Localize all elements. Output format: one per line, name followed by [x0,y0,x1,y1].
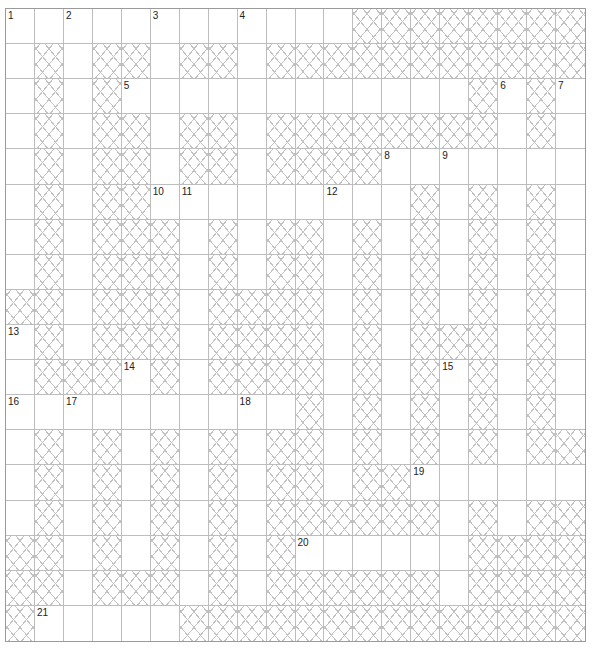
answer-cell[interactable] [6,79,35,114]
answer-cell[interactable] [411,149,440,184]
answer-cell[interactable] [267,79,296,114]
answer-cell[interactable] [440,290,469,325]
answer-cell[interactable] [180,255,209,290]
answer-cell[interactable] [267,185,296,220]
answer-cell[interactable] [151,44,180,79]
answer-cell[interactable] [122,430,151,465]
answer-cell[interactable] [64,220,93,255]
answer-cell[interactable] [267,9,296,44]
answer-cell[interactable]: 2 [64,9,93,44]
answer-cell[interactable] [238,114,267,149]
answer-cell[interactable] [440,255,469,290]
answer-cell[interactable] [382,255,411,290]
answer-cell[interactable] [6,220,35,255]
answer-cell[interactable] [93,395,122,430]
answer-cell[interactable] [35,395,64,430]
answer-cell[interactable]: 14 [122,360,151,395]
answer-cell[interactable] [382,325,411,360]
answer-cell[interactable] [35,9,64,44]
answer-cell[interactable]: 9 [440,149,469,184]
answer-cell[interactable]: 12 [324,185,353,220]
answer-cell[interactable] [122,395,151,430]
answer-cell[interactable] [180,325,209,360]
answer-cell[interactable]: 15 [440,360,469,395]
answer-cell[interactable] [440,220,469,255]
answer-cell[interactable]: 13 [6,325,35,360]
answer-cell[interactable] [209,185,238,220]
answer-cell[interactable] [556,465,585,500]
answer-cell[interactable]: 21 [35,606,64,641]
answer-cell[interactable] [238,430,267,465]
answer-cell[interactable] [556,255,585,290]
answer-cell[interactable] [527,465,556,500]
answer-cell[interactable] [556,185,585,220]
answer-cell[interactable]: 16 [6,395,35,430]
answer-cell[interactable]: 18 [238,395,267,430]
answer-cell[interactable] [498,395,527,430]
answer-cell[interactable] [238,501,267,536]
answer-cell[interactable] [180,290,209,325]
answer-cell[interactable] [440,571,469,606]
answer-cell[interactable] [64,325,93,360]
answer-cell[interactable] [411,79,440,114]
answer-cell[interactable] [382,185,411,220]
answer-cell[interactable] [180,9,209,44]
answer-cell[interactable]: 1 [6,9,35,44]
answer-cell[interactable] [180,395,209,430]
answer-cell[interactable] [238,255,267,290]
answer-cell[interactable] [556,149,585,184]
answer-cell[interactable]: 19 [411,465,440,500]
answer-cell[interactable] [353,536,382,571]
answer-cell[interactable] [324,220,353,255]
answer-cell[interactable] [6,501,35,536]
answer-cell[interactable] [64,536,93,571]
answer-cell[interactable] [238,149,267,184]
answer-cell[interactable] [122,501,151,536]
answer-cell[interactable] [498,501,527,536]
answer-cell[interactable] [180,501,209,536]
answer-cell[interactable] [498,465,527,500]
answer-cell[interactable] [382,360,411,395]
answer-cell[interactable] [382,79,411,114]
answer-cell[interactable] [382,290,411,325]
answer-cell[interactable] [440,395,469,430]
answer-cell[interactable] [324,9,353,44]
answer-cell[interactable] [122,465,151,500]
answer-cell[interactable] [64,571,93,606]
answer-cell[interactable] [151,606,180,641]
answer-cell[interactable] [556,290,585,325]
answer-cell[interactable] [440,185,469,220]
answer-cell[interactable] [556,325,585,360]
answer-cell[interactable] [382,220,411,255]
answer-cell[interactable] [180,79,209,114]
answer-cell[interactable] [498,290,527,325]
answer-cell[interactable] [6,255,35,290]
answer-cell[interactable] [469,465,498,500]
answer-cell[interactable]: 11 [180,185,209,220]
answer-cell[interactable] [238,571,267,606]
answer-cell[interactable] [324,325,353,360]
answer-cell[interactable] [382,430,411,465]
answer-cell[interactable]: 20 [296,536,325,571]
answer-cell[interactable]: 17 [64,395,93,430]
answer-cell[interactable] [64,465,93,500]
answer-cell[interactable] [498,360,527,395]
answer-cell[interactable] [498,149,527,184]
answer-cell[interactable] [238,220,267,255]
answer-cell[interactable] [440,501,469,536]
answer-cell[interactable] [324,430,353,465]
answer-cell[interactable] [527,149,556,184]
answer-cell[interactable] [209,395,238,430]
answer-cell[interactable] [498,220,527,255]
answer-cell[interactable] [498,255,527,290]
answer-cell[interactable] [122,9,151,44]
answer-cell[interactable] [556,395,585,430]
answer-cell[interactable]: 4 [238,9,267,44]
answer-cell[interactable] [64,114,93,149]
answer-cell[interactable] [411,536,440,571]
answer-cell[interactable] [324,255,353,290]
answer-cell[interactable] [469,149,498,184]
answer-cell[interactable] [64,79,93,114]
answer-cell[interactable] [180,465,209,500]
answer-cell[interactable] [353,185,382,220]
